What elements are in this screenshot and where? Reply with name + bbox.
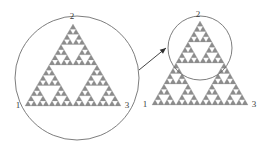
fractal-cell [85, 60, 91, 65]
fractal-cell [31, 91, 37, 96]
fractal-cell [170, 79, 176, 84]
fractal-cell [67, 60, 73, 65]
fractal-cell [194, 100, 200, 105]
fractal-cell [212, 89, 218, 94]
fractal-cell [209, 42, 215, 47]
fractal-cell [103, 91, 109, 96]
fractal-cell [164, 89, 170, 94]
fractal-cell [37, 91, 43, 96]
fractal-cell [218, 79, 224, 84]
fractal-cell [197, 21, 203, 26]
fractal-cell [167, 95, 173, 100]
zoom-arrow-group [139, 48, 166, 70]
fractal-cell [43, 101, 49, 106]
fractal-cell [191, 95, 197, 100]
fractal-cell [67, 39, 73, 44]
fractal-cell [85, 101, 91, 106]
left-sierpinski-triangle [25, 24, 121, 106]
fractal-cell [179, 53, 185, 58]
fractal-cell [212, 79, 218, 84]
fractal-cell [103, 80, 109, 85]
fractal-cell [191, 32, 197, 37]
fractal-cell [61, 50, 67, 55]
fractal-cell [64, 55, 70, 60]
fractal-cell [227, 95, 233, 100]
fractal-cell [200, 58, 206, 63]
fractal-cell [194, 37, 200, 42]
fractal-cell [164, 100, 170, 105]
fractal-cell [227, 74, 233, 79]
fractal-cell [91, 101, 97, 106]
fractal-cell [176, 58, 182, 63]
fractal-cell [67, 29, 73, 34]
sierpinski-self-similarity-figure: 123123 [0, 0, 263, 156]
fractal-cell [212, 58, 218, 63]
fractal-cell [79, 60, 85, 65]
fractal-cell [88, 96, 94, 101]
fractal-cell [182, 47, 188, 52]
fractal-cell [109, 91, 115, 96]
fractal-cell [37, 101, 43, 106]
fractal-cell [70, 24, 76, 29]
fractal-cell [224, 100, 230, 105]
fractal-cell [173, 63, 179, 68]
fractal-cell [206, 58, 212, 63]
fractal-cell [188, 47, 194, 52]
fractal-cell [188, 37, 194, 42]
fractal-cell [49, 80, 55, 85]
fractal-cell [28, 96, 34, 101]
fractal-cell [206, 47, 212, 52]
fractal-cell [76, 96, 82, 101]
fractal-cell [55, 60, 61, 65]
fractal-cell [203, 32, 209, 37]
fractal-cell [194, 26, 200, 31]
fractal-cell [73, 39, 79, 44]
right-sierpinski-triangle [152, 21, 248, 105]
fractal-cell [236, 89, 242, 94]
fractal-cell [61, 60, 67, 65]
fractal-cell [67, 101, 73, 106]
fractal-cell [179, 95, 185, 100]
fractal-cell [200, 26, 206, 31]
fractal-cell [34, 86, 40, 91]
fractal-cell [212, 47, 218, 52]
fractal-cell [79, 101, 85, 106]
fractal-cell [79, 39, 85, 44]
fractal-cell [43, 80, 49, 85]
fractal-cell [37, 80, 43, 85]
left-vertex-label-2: 2 [70, 11, 75, 21]
left-vertex-label-3: 3 [125, 100, 130, 110]
fractal-cell [203, 95, 209, 100]
fractal-cell [230, 100, 236, 105]
magnifier-circle-left [15, 16, 139, 140]
fractal-cell [188, 58, 194, 63]
fractal-cell [224, 79, 230, 84]
fractal-cell [203, 53, 209, 58]
fractal-cell [76, 55, 82, 60]
fractal-cell [40, 75, 46, 80]
fractal-cell [61, 91, 67, 96]
figure-canvas: 123123 [0, 0, 263, 156]
fractal-cell [94, 65, 100, 70]
fractal-cell [215, 53, 221, 58]
fractal-cell [85, 91, 91, 96]
fractal-cell [82, 86, 88, 91]
fractal-cell [97, 80, 103, 85]
fractal-cell [155, 95, 161, 100]
fractal-cell [49, 70, 55, 75]
fractal-cell [218, 100, 224, 105]
fractal-cell [176, 79, 182, 84]
fractal-cell [109, 101, 115, 106]
fractal-cell [112, 96, 118, 101]
fractal-cell [31, 101, 37, 106]
fractal-cell [106, 86, 112, 91]
fractal-cell [97, 101, 103, 106]
fractal-cell [61, 101, 67, 106]
fractal-cell [52, 55, 58, 60]
fractal-cell [236, 100, 242, 105]
fractal-cell [239, 95, 245, 100]
right-vertex-label-1: 1 [143, 99, 148, 109]
fractal-cell [185, 42, 191, 47]
left-vertex-label-1: 1 [16, 100, 21, 110]
fractal-cell [58, 45, 64, 50]
